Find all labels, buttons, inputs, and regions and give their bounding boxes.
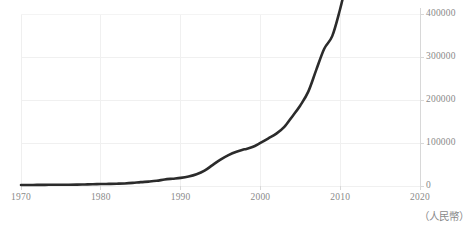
y-tick-label: 100000 [426,138,456,148]
y-tick-label: 400000 [426,9,456,19]
x-tick-label: 2020 [398,193,442,203]
data-line-gdp [21,0,412,185]
tick-marks [21,14,424,190]
y-tick-label: 0 [426,181,431,191]
data-line-series [21,0,412,185]
unit-annotation: （人民幣） [419,208,469,223]
x-tick-label: 1990 [159,193,203,203]
x-tick-label: 2010 [318,193,362,203]
x-tick-label: 1980 [79,193,123,203]
x-tick-label: 1970 [0,193,43,203]
x-tick-label: 2000 [238,193,282,203]
y-tick-label: 200000 [426,95,456,105]
gdp-line-chart: 0100000200000300000400000 19701980199020… [0,0,475,236]
y-tick-label: 300000 [426,52,456,62]
